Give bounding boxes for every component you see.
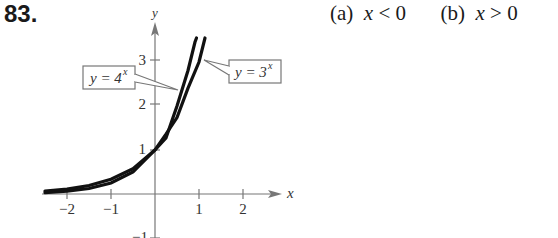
y-tick-3: 3: [139, 52, 147, 68]
exponential-graph: −2 −1 1 2 3 2 1 −1 x y y = 4 x y = 3 x: [0, 0, 558, 238]
curve-3x: [45, 38, 205, 191]
curve-4x: [45, 38, 197, 193]
x-tick-neg2: −2: [59, 201, 75, 217]
label-4x-text: y = 4: [88, 70, 122, 86]
y-tick-2: 2: [139, 96, 147, 112]
x-axis-label: x: [286, 185, 294, 201]
label-3x-callout: y = 3 x: [204, 60, 281, 83]
x-tick-1: 1: [195, 201, 203, 217]
y-tick-neg1: −1: [132, 229, 148, 238]
x-tick-neg1: −1: [103, 201, 119, 217]
label-3x-text: y = 3: [233, 64, 267, 80]
label-4x-callout: y = 4 x: [83, 66, 178, 90]
y-tick-1: 1: [139, 141, 147, 157]
y-axis-label: y: [150, 5, 158, 20]
label-4x-exponent: x: [122, 66, 128, 77]
x-tick-2: 2: [239, 201, 247, 217]
label-3x-exponent: x: [267, 60, 273, 71]
